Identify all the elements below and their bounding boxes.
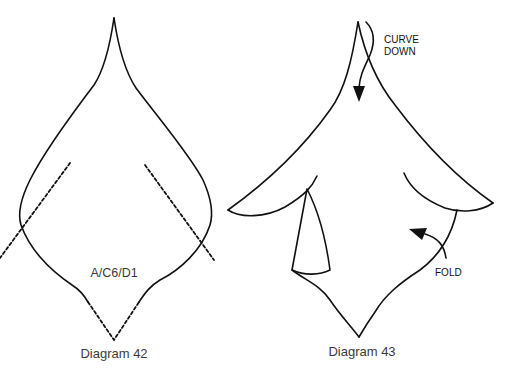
- diagram-42-pattern-code: A/C6/D1: [90, 266, 137, 280]
- diagram-43-left-flap: [292, 189, 330, 274]
- diagram-42-left-outline: [20, 18, 114, 302]
- curve-label-line-2: DOWN: [384, 46, 419, 58]
- diagram-43-curve-down-label: CURVE DOWN: [384, 34, 419, 58]
- diagram-43-right-wing-underside: [404, 173, 493, 211]
- diagram-42-drawing: [0, 18, 214, 340]
- diagram-43-lower-left-outline: [292, 270, 359, 337]
- diagram-43-caption: Diagram 43: [328, 344, 395, 359]
- diagram-43-fold-arrowhead-icon: [409, 228, 427, 240]
- diagram-43-fold-label: FOLD: [435, 267, 462, 279]
- diagram-43-drawing: [228, 22, 493, 337]
- diagram-43-left-outline: [228, 22, 358, 210]
- curve-label-line-1: CURVE: [384, 34, 419, 46]
- diagram-42-right-outline: [114, 18, 212, 302]
- diagram-42-caption: Diagram 42: [80, 346, 147, 361]
- diagram-42-right-dashed-line: [145, 165, 214, 260]
- diagram-43-right-outline: [358, 22, 493, 203]
- diagram-42-left-dashed-line: [0, 163, 70, 258]
- diagram-43-curve-down-arrowhead-icon: [353, 86, 365, 102]
- diagram-canvas: [0, 0, 511, 377]
- diagram-42-bottom-dashed-point: [88, 302, 139, 340]
- diagram-43-curve-down-arrow-line: [359, 22, 373, 88]
